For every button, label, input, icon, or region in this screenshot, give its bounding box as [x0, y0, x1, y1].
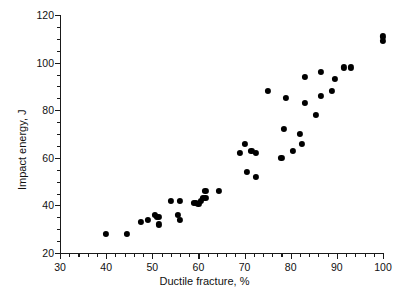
y-axis-tick-minor	[57, 241, 60, 242]
x-axis-title: Ductile fracture, %	[0, 275, 409, 287]
x-axis-tick-major	[291, 254, 292, 259]
data-point	[329, 88, 335, 94]
data-point	[124, 231, 130, 237]
x-axis-tick-minor	[125, 254, 126, 257]
x-axis-tick-minor	[318, 254, 319, 257]
y-axis-tick-minor	[57, 170, 60, 171]
x-axis-tick-major	[383, 254, 384, 259]
data-point	[253, 150, 259, 156]
x-axis-tick-minor	[217, 254, 218, 257]
data-point	[253, 174, 259, 180]
y-axis-tick-label: 60	[24, 153, 54, 164]
x-axis-tick-minor	[346, 254, 347, 257]
x-axis-tick-label: 90	[317, 262, 357, 273]
data-point	[177, 198, 183, 204]
data-point	[301, 100, 307, 106]
y-axis-tick-minor	[57, 27, 60, 28]
y-axis-title: Impact energy, J	[16, 110, 28, 191]
x-axis-tick-minor	[69, 254, 70, 257]
data-point	[145, 217, 151, 223]
y-axis-tick-minor	[57, 39, 60, 40]
y-axis-tick-minor	[57, 98, 60, 99]
data-point	[301, 74, 307, 80]
data-point	[313, 112, 319, 118]
data-point	[156, 221, 162, 227]
x-axis-tick-major	[245, 254, 246, 259]
data-point	[297, 131, 303, 137]
x-axis-tick-minor	[365, 254, 366, 257]
x-axis-tick-minor	[272, 254, 273, 257]
data-point	[318, 69, 324, 75]
y-axis-tick-label: 20	[24, 248, 54, 259]
data-point	[156, 214, 162, 220]
x-axis-tick-major	[152, 254, 153, 259]
data-point	[278, 155, 284, 161]
x-axis-tick-label: 30	[40, 262, 80, 273]
x-axis-tick-label: 50	[132, 262, 172, 273]
y-axis-tick-minor	[57, 86, 60, 87]
x-axis-tick-major	[60, 254, 61, 259]
x-axis-tick-minor	[162, 254, 163, 257]
y-axis-tick-minor	[57, 182, 60, 183]
data-point	[244, 169, 250, 175]
x-axis-tick-minor	[235, 254, 236, 257]
x-axis-tick-minor	[171, 254, 172, 257]
x-axis-tick-minor	[355, 254, 356, 257]
x-axis-tick-minor	[97, 254, 98, 257]
y-axis-tick-major	[55, 205, 60, 206]
x-axis-tick-label: 100	[363, 262, 403, 273]
x-axis-tick-minor	[134, 254, 135, 257]
x-axis-tick-major	[198, 254, 199, 259]
x-axis-tick-minor	[374, 254, 375, 257]
x-axis-line	[60, 253, 384, 254]
x-axis-tick-minor	[263, 254, 264, 257]
data-point	[103, 231, 109, 237]
x-axis-tick-label: 40	[86, 262, 126, 273]
x-axis-tick-minor	[143, 254, 144, 257]
data-point	[237, 150, 243, 156]
x-axis-tick-minor	[78, 254, 79, 257]
x-axis-tick-label: 60	[178, 262, 218, 273]
x-axis-tick-label: 80	[271, 262, 311, 273]
data-point	[202, 195, 208, 201]
data-point	[341, 64, 347, 70]
y-axis-tick-minor	[57, 146, 60, 147]
y-axis-tick-minor	[57, 122, 60, 123]
data-point	[138, 219, 144, 225]
x-axis-tick-minor	[180, 254, 181, 257]
y-axis-tick-label: 120	[24, 10, 54, 21]
y-axis-tick-label: 40	[24, 200, 54, 211]
y-axis-tick-minor	[57, 217, 60, 218]
data-point	[241, 140, 247, 146]
data-point	[290, 148, 296, 154]
y-axis-tick-major	[55, 158, 60, 159]
y-axis-tick-minor	[57, 194, 60, 195]
data-point	[202, 188, 208, 194]
x-axis-tick-minor	[189, 254, 190, 257]
data-point	[283, 95, 289, 101]
x-axis-tick-minor	[88, 254, 89, 257]
y-axis-tick-minor	[57, 75, 60, 76]
x-axis-tick-minor	[226, 254, 227, 257]
data-point	[318, 93, 324, 99]
x-axis-tick-major	[106, 254, 107, 259]
y-axis-tick-label: 80	[24, 105, 54, 116]
y-axis-tick-major	[55, 63, 60, 64]
scatter-chart-figure: Impact energy, J Ductile fracture, % 204…	[0, 0, 409, 295]
data-point	[265, 88, 271, 94]
x-axis-tick-minor	[254, 254, 255, 257]
x-axis-tick-minor	[328, 254, 329, 257]
y-axis-tick-minor	[57, 51, 60, 52]
x-axis-tick-major	[337, 254, 338, 259]
data-point	[216, 188, 222, 194]
data-point	[281, 126, 287, 132]
data-point	[348, 64, 354, 70]
x-axis-tick-minor	[208, 254, 209, 257]
data-point	[177, 217, 183, 223]
data-point	[168, 198, 174, 204]
x-axis-tick-minor	[309, 254, 310, 257]
y-axis-tick-minor	[57, 229, 60, 230]
data-point	[331, 76, 337, 82]
x-axis-tick-minor	[300, 254, 301, 257]
y-axis-tick-major	[55, 110, 60, 111]
